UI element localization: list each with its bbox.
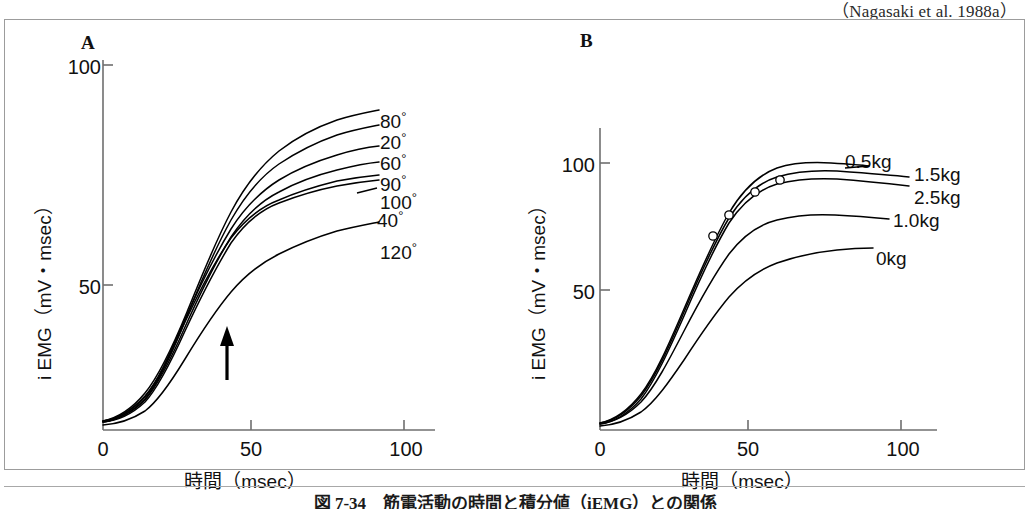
figure-frame: A 100 50 0 50 100 時間（msec） i EMG（mV・msec… (4, 19, 1025, 470)
panel-a-curves (103, 110, 379, 425)
panel-a-label-leaders (357, 188, 377, 193)
panel-a-curve-40 (103, 180, 379, 422)
panel-b: B 100 50 0 50 100 時間（msec） i EMG（mV・msec… (517, 20, 1026, 471)
panel-b-label-leaders (845, 166, 869, 168)
arrow-marker-icon (220, 326, 234, 380)
caption-divider (4, 486, 1025, 487)
panel-a-plot (5, 20, 525, 471)
figure-caption: 図 7-34 筋電活動の時間と積分値（iEMG）との関係 (0, 489, 1031, 509)
panel-a-curve-90 (103, 162, 379, 422)
panel-a-curve-60 (103, 146, 379, 421)
panel-b-plot (517, 20, 1026, 471)
panel-a-curve-100 (103, 175, 379, 421)
panel-b-curve-05kg (600, 163, 869, 423)
panel-a: A 100 50 0 50 100 時間（msec） i EMG（mV・msec… (5, 20, 525, 471)
panel-a-curve-80 (103, 110, 379, 421)
figure-page: （Nagasaki et al. 1988a） A 100 50 0 50 10… (0, 0, 1031, 509)
panel-b-curves (600, 163, 909, 426)
